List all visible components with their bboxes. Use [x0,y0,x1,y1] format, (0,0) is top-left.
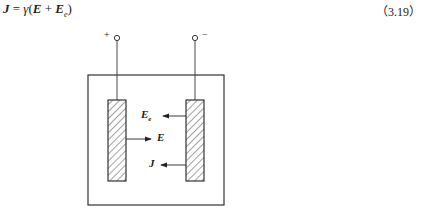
label-j: J [149,157,155,169]
battery-diagram [0,0,423,216]
plus-sign: + [104,29,110,40]
plus-terminal-icon [114,35,119,40]
right-electrode [186,100,204,181]
minus-sign: − [202,29,208,40]
label-e: E [157,131,164,143]
left-electrode [108,100,126,181]
label-ee: Ee [141,108,151,123]
minus-terminal-icon [192,35,197,40]
